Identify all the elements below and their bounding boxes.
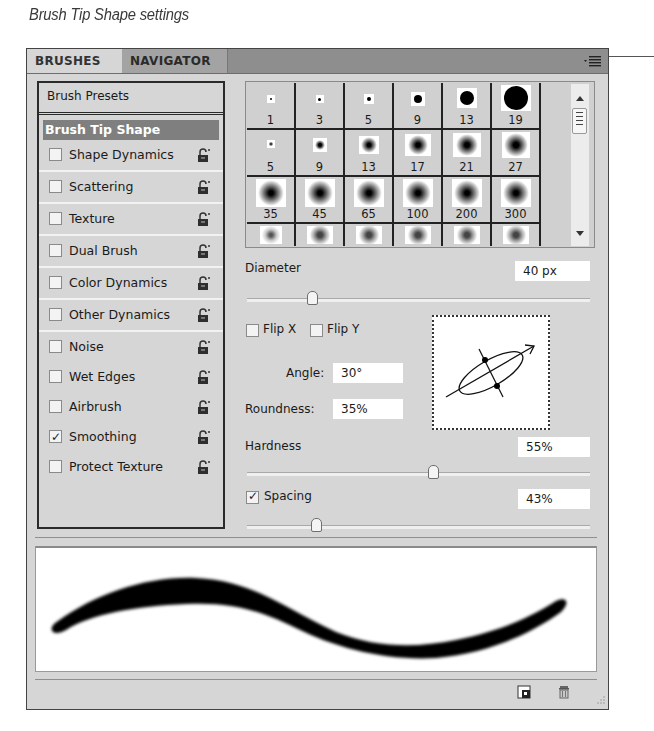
- lock-icon[interactable]: [197, 276, 211, 291]
- scattering-checkbox[interactable]: [49, 180, 62, 193]
- option-scattering[interactable]: Scattering: [39, 172, 223, 204]
- lock-icon[interactable]: [197, 212, 211, 227]
- brush-tip-cell[interactable]: 5: [247, 130, 296, 177]
- tab-brushes[interactable]: BRUSHES: [27, 49, 122, 73]
- brush-tip-cell[interactable]: 3: [296, 83, 345, 130]
- flip-y-label: Flip Y: [327, 322, 359, 336]
- option-airbrush[interactable]: Airbrush: [39, 392, 223, 422]
- panel-menu-icon[interactable]: [584, 55, 602, 67]
- option-label: Color Dynamics: [69, 275, 167, 290]
- new-brush-icon[interactable]: [517, 685, 531, 699]
- hardness-slider[interactable]: [247, 472, 590, 476]
- protect-texture-checkbox[interactable]: [49, 460, 62, 473]
- brush-tip-cell[interactable]: 35: [247, 177, 296, 224]
- brush-tip-cell[interactable]: 27: [492, 130, 541, 177]
- option-dual-brush[interactable]: Dual Brush: [39, 236, 223, 268]
- option-protect-texture[interactable]: Protect Texture: [39, 452, 223, 482]
- brush-tip-cell[interactable]: 100: [394, 177, 443, 224]
- divider: [35, 537, 597, 538]
- brush-tip-cell[interactable]: 45: [296, 177, 345, 224]
- option-wet-edges[interactable]: Wet Edges: [39, 362, 223, 392]
- color-dynamics-checkbox[interactable]: [49, 276, 62, 289]
- brush-tip-cell[interactable]: [296, 224, 345, 246]
- hardness-slider-knob[interactable]: [428, 465, 439, 479]
- tab-navigator[interactable]: NAVIGATOR: [122, 49, 228, 73]
- shape-dynamics-checkbox[interactable]: [49, 148, 62, 161]
- lock-icon[interactable]: [197, 308, 211, 323]
- noise-checkbox[interactable]: [49, 340, 62, 353]
- option-label: Wet Edges: [69, 369, 135, 384]
- brush-tip-cell[interactable]: [394, 224, 443, 246]
- lock-icon[interactable]: [197, 460, 211, 475]
- lock-icon[interactable]: [197, 244, 211, 259]
- diameter-input[interactable]: 40 px: [515, 261, 590, 281]
- option-label: Shape Dynamics: [69, 147, 174, 162]
- brush-tip-cell[interactable]: 13: [345, 130, 394, 177]
- brush-tip-cell[interactable]: 65: [345, 177, 394, 224]
- lock-icon[interactable]: [197, 340, 211, 355]
- brush-tip-cell[interactable]: 300: [492, 177, 541, 224]
- option-label: Protect Texture: [69, 459, 163, 474]
- brush-tip-cell[interactable]: [247, 224, 296, 246]
- brush-tip-cell[interactable]: 1: [247, 83, 296, 130]
- other-dynamics-checkbox[interactable]: [49, 308, 62, 321]
- smoothing-checkbox[interactable]: [49, 430, 62, 443]
- option-label: Noise: [69, 339, 104, 354]
- flip-x-label: Flip X: [263, 322, 296, 336]
- brush-tip-cell[interactable]: 17: [394, 130, 443, 177]
- brush-tip-cell[interactable]: 200: [443, 177, 492, 224]
- diameter-slider-knob[interactable]: [307, 291, 318, 305]
- option-shape-dynamics[interactable]: Shape Dynamics: [39, 140, 223, 172]
- brush-tip-cell[interactable]: 13: [443, 83, 492, 130]
- roundness-label: Roundness:: [245, 402, 315, 416]
- flip-y-checkbox[interactable]: [310, 324, 323, 337]
- lock-icon[interactable]: [197, 148, 211, 163]
- hardness-input[interactable]: 55%: [518, 437, 590, 457]
- brush-tip-cell[interactable]: 19: [492, 83, 541, 130]
- option-noise[interactable]: Noise: [39, 332, 223, 362]
- spacing-checkbox[interactable]: [246, 491, 259, 504]
- roundness-input[interactable]: 35%: [333, 399, 403, 419]
- trash-icon[interactable]: [557, 685, 571, 699]
- scroll-down-arrow-icon[interactable]: [576, 231, 584, 236]
- option-label: Airbrush: [69, 399, 122, 414]
- lock-icon[interactable]: [197, 400, 211, 415]
- diameter-slider[interactable]: [247, 298, 590, 302]
- brush-tip-shape-item[interactable]: Brush Tip Shape: [43, 120, 219, 140]
- lock-icon[interactable]: [197, 180, 211, 195]
- brush-tip-cell[interactable]: [345, 224, 394, 246]
- lock-icon[interactable]: [197, 370, 211, 385]
- brush-tip-cell[interactable]: [492, 224, 541, 246]
- scroll-thumb[interactable]: [572, 108, 587, 134]
- brush-tip-cell[interactable]: 9: [394, 83, 443, 130]
- flip-x-checkbox[interactable]: [246, 324, 259, 337]
- brush-tip-cell[interactable]: 9: [296, 130, 345, 177]
- brush-tip-cell[interactable]: [443, 224, 492, 246]
- brush-tip-grid: 1 3 5 9 13 19 5 9 13 17 21 27 35 45 65 1…: [245, 81, 595, 248]
- lock-icon[interactable]: [197, 430, 211, 445]
- angle-input[interactable]: 30°: [333, 363, 403, 383]
- option-smoothing[interactable]: Smoothing: [39, 422, 223, 452]
- spacing-input[interactable]: 43%: [518, 489, 590, 509]
- brush-stroke-preview: [35, 546, 597, 672]
- brush-grid-scrollbar[interactable]: [571, 84, 589, 246]
- wet-edges-checkbox[interactable]: [49, 370, 62, 383]
- resize-grip-icon[interactable]: [595, 696, 605, 706]
- dual-brush-checkbox[interactable]: [49, 244, 62, 257]
- roundness-handle[interactable]: [494, 383, 500, 389]
- roundness-handle[interactable]: [482, 357, 488, 363]
- spacing-slider[interactable]: [247, 525, 590, 529]
- option-texture[interactable]: Texture: [39, 204, 223, 236]
- figure-caption: Brush Tip Shape settings: [29, 6, 189, 24]
- spacing-slider-knob[interactable]: [311, 518, 322, 532]
- brush-tip-cell[interactable]: 21: [443, 130, 492, 177]
- texture-checkbox[interactable]: [49, 212, 62, 225]
- option-other-dynamics[interactable]: Other Dynamics: [39, 300, 223, 332]
- angle-roundness-editor[interactable]: [432, 315, 550, 430]
- airbrush-checkbox[interactable]: [49, 400, 62, 413]
- brush-presets-button[interactable]: Brush Presets: [39, 83, 223, 115]
- scroll-up-arrow-icon[interactable]: [576, 96, 584, 101]
- option-color-dynamics[interactable]: Color Dynamics: [39, 268, 223, 300]
- brush-tip-cell[interactable]: 5: [345, 83, 394, 130]
- brush-angle-ellipse-icon: [434, 317, 548, 428]
